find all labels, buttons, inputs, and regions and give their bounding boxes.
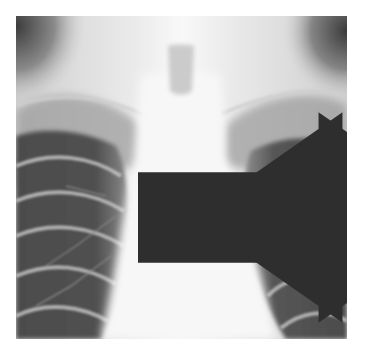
arrow-left-icon bbox=[192, 56, 347, 339]
chest-xray-image bbox=[16, 16, 347, 339]
